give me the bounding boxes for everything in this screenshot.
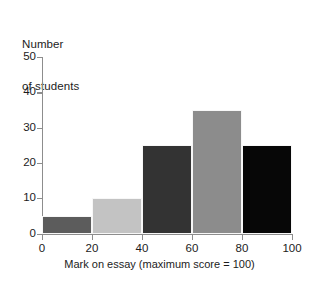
x-axis-tick xyxy=(192,234,193,240)
y-axis-tick xyxy=(37,163,43,164)
y-axis-tick xyxy=(37,92,43,93)
histogram-bar xyxy=(42,216,92,234)
y-axis-tick-label: 0 xyxy=(0,228,36,240)
x-axis-tick-label: 100 xyxy=(272,243,312,255)
x-axis-tick xyxy=(92,234,93,240)
x-axis-tick xyxy=(42,234,43,240)
y-axis-tick-label: 20 xyxy=(0,157,36,169)
y-axis-tick-label: 10 xyxy=(0,192,36,204)
x-axis-tick-label: 20 xyxy=(72,243,112,255)
y-axis-tick-label: 50 xyxy=(0,51,36,63)
histogram-bar xyxy=(92,198,142,233)
x-axis-line xyxy=(42,234,292,235)
histogram-bar xyxy=(192,110,242,234)
histogram-bar xyxy=(142,145,192,233)
histogram-bar xyxy=(242,145,292,233)
y-axis-title: Number of students xyxy=(22,9,79,121)
x-axis-tick-label: 40 xyxy=(122,243,162,255)
x-axis-tick-label: 0 xyxy=(22,243,62,255)
y-axis-tick-label: 30 xyxy=(0,122,36,134)
x-axis-tick-label: 60 xyxy=(172,243,212,255)
x-axis-tick xyxy=(292,234,293,240)
y-axis-tick xyxy=(37,128,43,129)
x-axis-tick xyxy=(142,234,143,240)
y-axis-tick-label: 40 xyxy=(0,86,36,98)
x-axis-title: Mark on essay (maximum score = 100) xyxy=(0,258,319,271)
y-axis-tick xyxy=(37,57,43,58)
histogram-chart: Number of students 010203040500204060801… xyxy=(0,0,319,286)
x-axis-tick xyxy=(242,234,243,240)
y-axis-title-line-1: Number xyxy=(22,37,79,51)
x-axis-tick-label: 80 xyxy=(222,243,262,255)
y-axis-tick xyxy=(37,198,43,199)
y-axis-line xyxy=(42,57,43,235)
